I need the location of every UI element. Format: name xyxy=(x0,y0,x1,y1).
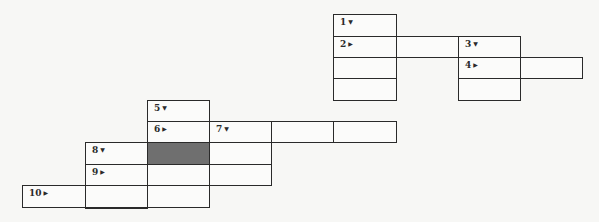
grid-cell[interactable]: 7▼ xyxy=(209,121,272,143)
clue-number-3: 3▼ xyxy=(465,39,478,49)
grid-cell[interactable] xyxy=(209,142,272,165)
clue-number-label: 7 xyxy=(216,124,222,134)
across-arrow-icon: ▶ xyxy=(100,168,105,175)
grid-cell[interactable] xyxy=(85,185,148,208)
grid-cell[interactable] xyxy=(147,185,210,208)
clue-number-label: 9 xyxy=(92,167,98,177)
grid-cell[interactable]: 6▶ xyxy=(147,121,210,143)
grid-cell[interactable] xyxy=(333,57,397,79)
across-arrow-icon: ▶ xyxy=(44,189,49,196)
grid-cell[interactable] xyxy=(147,164,210,186)
crossword-grid: 1▼2▶3▼4▶5▼6▶7▼8▼9▶10▶ xyxy=(0,0,599,222)
grid-cell[interactable] xyxy=(271,121,334,143)
grid-cell[interactable] xyxy=(333,121,397,143)
grid-cell[interactable] xyxy=(396,36,459,58)
down-arrow-icon: ▼ xyxy=(162,104,167,111)
grid-cell[interactable]: 5▼ xyxy=(147,100,210,122)
clue-number-1: 1▼ xyxy=(340,17,353,27)
grid-cell[interactable] xyxy=(85,207,148,209)
clue-number-label: 5 xyxy=(154,103,160,113)
grid-cell[interactable] xyxy=(209,164,272,186)
clue-number-label: 3 xyxy=(465,39,471,49)
grid-cell[interactable] xyxy=(458,78,521,101)
grid-cell[interactable] xyxy=(520,57,583,79)
grid-cell[interactable]: 8▼ xyxy=(85,142,148,165)
grid-cell[interactable]: 3▼ xyxy=(458,36,521,58)
clue-number-label: 6 xyxy=(154,124,160,134)
clue-number-7: 7▼ xyxy=(216,124,229,134)
across-arrow-icon: ▶ xyxy=(348,40,353,47)
grid-cell[interactable]: 10▶ xyxy=(22,185,86,208)
clue-number-label: 10 xyxy=(29,188,42,198)
clue-number-10: 10▶ xyxy=(29,188,48,198)
grid-cell[interactable] xyxy=(333,78,397,101)
down-arrow-icon: ▼ xyxy=(473,40,478,47)
clue-number-label: 4 xyxy=(465,60,471,70)
shaded-cell xyxy=(147,142,210,165)
clue-number-2: 2▶ xyxy=(340,39,353,49)
across-arrow-icon: ▶ xyxy=(473,61,478,68)
clue-number-label: 2 xyxy=(340,39,346,49)
down-arrow-icon: ▼ xyxy=(100,146,105,153)
clue-number-5: 5▼ xyxy=(154,103,167,113)
clue-number-label: 8 xyxy=(92,145,98,155)
clue-number-8: 8▼ xyxy=(92,145,105,155)
grid-cell[interactable]: 1▼ xyxy=(333,14,397,37)
grid-cell[interactable]: 4▶ xyxy=(458,57,521,79)
clue-number-4: 4▶ xyxy=(465,60,478,70)
across-arrow-icon: ▶ xyxy=(162,125,167,132)
down-arrow-icon: ▼ xyxy=(348,18,353,25)
clue-number-label: 1 xyxy=(340,17,346,27)
down-arrow-icon: ▼ xyxy=(224,125,229,132)
grid-cell[interactable]: 9▶ xyxy=(85,164,148,186)
clue-number-9: 9▶ xyxy=(92,167,105,177)
grid-cell[interactable]: 2▶ xyxy=(333,36,397,58)
clue-number-6: 6▶ xyxy=(154,124,167,134)
